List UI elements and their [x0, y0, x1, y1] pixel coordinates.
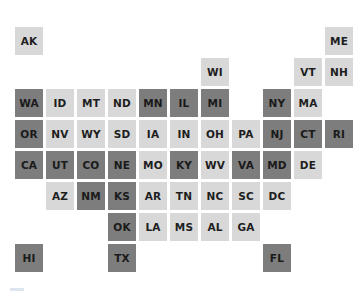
state-tile-id: ID	[46, 89, 74, 117]
state-tile-ky: KY	[170, 151, 198, 179]
state-tile-ks: KS	[108, 182, 136, 210]
state-tile-ne: NE	[108, 151, 136, 179]
state-tile-mn: MN	[139, 89, 167, 117]
state-tile-oh: OH	[201, 120, 229, 148]
state-tile-in: IN	[170, 120, 198, 148]
state-tile-nd: ND	[108, 89, 136, 117]
state-tile-il: IL	[170, 89, 198, 117]
state-tile-tn: TN	[170, 182, 198, 210]
state-tile-az: AZ	[46, 182, 74, 210]
state-tile-de: DE	[294, 151, 322, 179]
state-tile-ri: RI	[325, 120, 353, 148]
state-tile-sd: SD	[108, 120, 136, 148]
state-tile-nm: NM	[77, 182, 105, 210]
state-tile-sc: SC	[232, 182, 260, 210]
state-tile-ny: NY	[263, 89, 291, 117]
state-tile-nv: NV	[46, 120, 74, 148]
legend-swatch	[10, 288, 24, 291]
state-tile-wv: WV	[201, 151, 229, 179]
state-tile-ga: GA	[232, 213, 260, 241]
state-tile-ca: CA	[15, 151, 43, 179]
state-tile-dc: DC	[263, 182, 291, 210]
state-tile-ak: AK	[15, 27, 43, 55]
state-tile-nj: NJ	[263, 120, 291, 148]
state-tile-vt: VT	[294, 58, 322, 86]
state-tile-ms: MS	[170, 213, 198, 241]
state-tile-ia: IA	[139, 120, 167, 148]
state-tile-al: AL	[201, 213, 229, 241]
state-tile-ok: OK	[108, 213, 136, 241]
state-tile-co: CO	[77, 151, 105, 179]
state-tile-mt: MT	[77, 89, 105, 117]
state-tile-fl: FL	[263, 244, 291, 272]
state-tile-hi: HI	[15, 244, 43, 272]
state-tile-ar: AR	[139, 182, 167, 210]
state-tile-pa: PA	[232, 120, 260, 148]
state-tile-ct: CT	[294, 120, 322, 148]
state-tile-ut: UT	[46, 151, 74, 179]
state-tile-or: OR	[15, 120, 43, 148]
state-tile-nc: NC	[201, 182, 229, 210]
state-tile-tx: TX	[108, 244, 136, 272]
us-tile-grid-map: AKMEWIVTNHWAIDMTNDMNILMINYMAORNVWYSDIAIN…	[0, 0, 362, 293]
state-tile-va: VA	[232, 151, 260, 179]
state-tile-wi: WI	[201, 58, 229, 86]
state-tile-la: LA	[139, 213, 167, 241]
state-tile-mo: MO	[139, 151, 167, 179]
state-tile-me: ME	[325, 27, 353, 55]
state-tile-wa: WA	[15, 89, 43, 117]
state-tile-ma: MA	[294, 89, 322, 117]
state-tile-nh: NH	[325, 58, 353, 86]
state-tile-wy: WY	[77, 120, 105, 148]
state-tile-mi: MI	[201, 89, 229, 117]
state-tile-md: MD	[263, 151, 291, 179]
